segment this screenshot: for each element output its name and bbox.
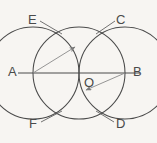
leader-F (41, 111, 62, 122)
point-label-C: C (116, 13, 125, 26)
point-label-D: D (116, 117, 125, 130)
diagram-canvas: A B O E C F D (0, 0, 157, 143)
leader-E (40, 21, 62, 34)
point-label-A: A (8, 65, 17, 78)
point-label-E: E (28, 13, 37, 26)
radius-arrow-from-A (33, 47, 75, 73)
point-label-B: B (133, 65, 142, 78)
leader-C (96, 21, 115, 34)
point-label-O: O (84, 76, 94, 89)
point-label-F: F (29, 117, 37, 130)
